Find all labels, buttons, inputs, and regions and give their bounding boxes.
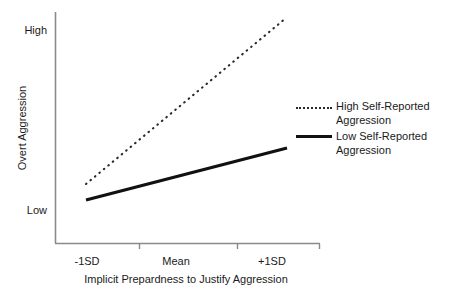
y-tick-label-low: Low [27, 204, 47, 216]
y-axis-title-group: Overt Aggression [16, 86, 28, 170]
legend-label-low: Low Self-Reported Aggression [336, 130, 456, 157]
x-tick-label-minus1sd: -1SD [74, 255, 99, 267]
x-tick-label-mean: Mean [162, 255, 190, 267]
legend-swatch-dotted-icon [296, 107, 332, 109]
legend-swatch-solid-icon [296, 135, 332, 138]
x-axis-title: Implicit Prepardness to Justify Aggressi… [84, 273, 288, 285]
legend-item-high-self-reported-aggression: High Self-Reported Aggression [296, 100, 456, 128]
x-tick-label-plus1sd: +1SD [258, 255, 286, 267]
legend-label-high-line1: High Self-Reported [336, 100, 430, 112]
legend-label-low-line2: Aggression [336, 144, 391, 156]
chart-legend: High Self-Reported Aggression Low Self-R… [296, 100, 456, 158]
series-line-high-self-reported-aggression [86, 18, 286, 184]
legend-item-low-self-reported-aggression: Low Self-Reported Aggression [296, 130, 456, 158]
series-line-low-self-reported-aggression [86, 148, 287, 200]
y-tick-label-high: High [24, 24, 47, 36]
legend-label-high-line2: Aggression [336, 114, 391, 126]
chart-figure: High Low Overt Aggression -1SD Mean +1SD… [0, 0, 458, 294]
legend-label-high: High Self-Reported Aggression [336, 100, 456, 127]
legend-label-low-line1: Low Self-Reported [336, 130, 427, 142]
y-axis-title: Overt Aggression [16, 86, 28, 170]
